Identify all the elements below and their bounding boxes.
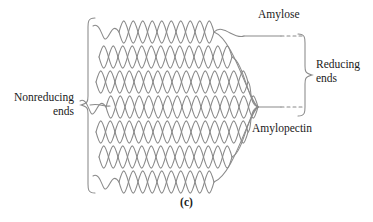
chain-strand-lower-5 [115, 121, 248, 143]
label-nonreducing-ends: Nonreducing ends [6, 91, 74, 118]
polysaccharide-chain-layer [80, 21, 258, 193]
chain-lead-wave-7 [93, 175, 119, 189]
chain-lead-wave-4 [80, 100, 106, 114]
chain-strand-lower-6 [118, 146, 232, 168]
chain-strand-lower-4 [106, 96, 258, 118]
chain-strand-lower-2 [118, 46, 232, 68]
chain-lead-wave-1 [93, 25, 119, 39]
chain-strand-lower-1 [119, 21, 214, 43]
right-brace-reducing-ends [298, 34, 312, 116]
label-reducing-ends: Reducing ends [316, 58, 372, 85]
label-amylopectin: Amylopectin [252, 122, 312, 136]
starch-structure-figure: Nonreducing ends Amylose Reducing ends A… [0, 0, 373, 222]
label-amylose: Amylose [258, 8, 300, 22]
chain-amylose-exit [214, 29, 244, 36]
chain-strand-lower-3 [115, 71, 248, 93]
chain-strand-lower-7 [119, 171, 214, 193]
figure-caption: (c) [0, 196, 373, 208]
chain-taper-7 [214, 107, 258, 182]
